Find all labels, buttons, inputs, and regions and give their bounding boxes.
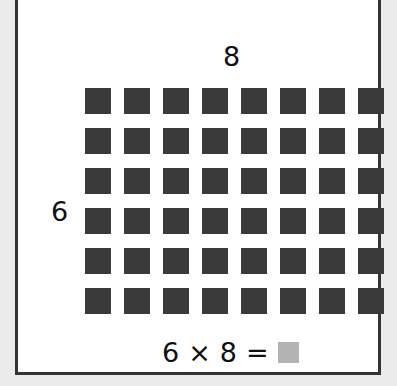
array-square [124,128,150,154]
array-square [241,288,267,314]
columns-count-label: 8 [223,43,240,70]
array-square [85,128,111,154]
array-square [124,288,150,314]
diagram-frame: 8 6 6 × 8 = [15,0,381,375]
equation-times-sign: × [188,339,211,366]
array-square [202,88,228,114]
array-square [163,88,189,114]
array-square [319,128,345,154]
array-square [163,288,189,314]
array-square [202,288,228,314]
equation-equals-sign: = [246,339,269,366]
answer-placeholder-box [278,342,299,363]
array-square [319,208,345,234]
array-square [202,208,228,234]
array-square [202,248,228,274]
array-square [163,168,189,194]
array-square [358,88,384,114]
array-square [85,88,111,114]
array-square [241,128,267,154]
array-square [319,248,345,274]
rows-count-label: 6 [51,198,68,225]
array-square [319,88,345,114]
equation-factor-rows: 6 [162,339,179,366]
array-square [358,168,384,194]
array-square [124,88,150,114]
array-square [202,168,228,194]
array-square [358,248,384,274]
array-square [358,208,384,234]
array-square [241,208,267,234]
array-square [241,168,267,194]
array-square [241,88,267,114]
array-square [85,208,111,234]
array-square [163,128,189,154]
array-square [163,248,189,274]
square-array [85,88,384,314]
array-square [280,208,306,234]
array-square [124,168,150,194]
array-square [319,168,345,194]
array-square [280,128,306,154]
array-square [280,248,306,274]
array-square [319,288,345,314]
array-square [163,208,189,234]
array-square [85,288,111,314]
array-square [124,248,150,274]
array-square [85,168,111,194]
array-square [280,88,306,114]
array-square [241,248,267,274]
array-square [358,288,384,314]
multiplication-equation: 6 × 8 = [162,339,299,366]
array-square [124,208,150,234]
array-square [202,128,228,154]
array-square [358,128,384,154]
equation-factor-columns: 8 [220,339,237,366]
array-square [85,248,111,274]
array-square [280,288,306,314]
array-square [280,168,306,194]
